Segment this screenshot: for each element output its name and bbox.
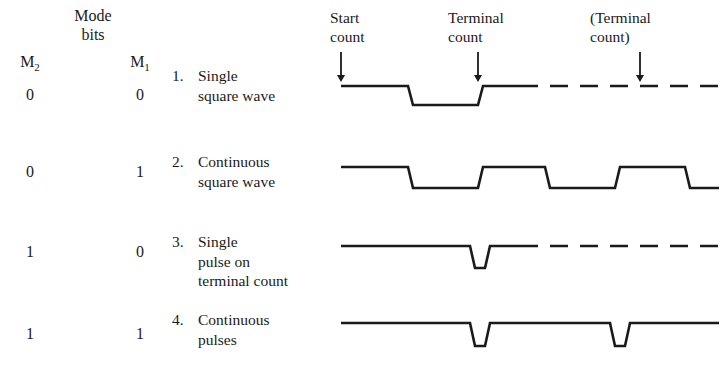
annotation-start-count-line2: count: [330, 27, 364, 46]
mode-bits-header-line1: Mode: [48, 6, 138, 25]
mode-description-2-line2: square wave: [198, 172, 337, 192]
mode-description-3: 3. Single pulse on terminal count: [172, 232, 337, 291]
annotation-terminal-count-alt: (Terminal count): [590, 8, 651, 46]
column-header-m1-label: M: [130, 53, 144, 70]
mode-description-4-line1: Continuous: [198, 310, 337, 330]
mode-timing-figure: Mode bits M2 M1 0 0 0 1 1 0 1 1 1. Singl…: [0, 0, 727, 376]
waveform-mode-continuous-pulses: [341, 323, 719, 346]
mode-description-3-line3: terminal count: [198, 271, 337, 291]
mode-bits-header-line2: bits: [48, 25, 138, 44]
mode-bits-header: Mode bits: [48, 6, 138, 44]
mode-description-2: 2. Continuous square wave: [172, 152, 337, 191]
column-header-m2-label: M: [20, 53, 34, 70]
mode-description-1-line1: Single: [198, 66, 337, 86]
bit-value-m1-row4: 1: [118, 325, 162, 343]
waveform-canvas: [0, 0, 727, 376]
waveform-mode-continuous-square-wave: [341, 167, 719, 188]
mode-description-3-line1: Single: [198, 232, 337, 252]
bit-value-m2-row2: 0: [8, 163, 52, 181]
bit-value-m1-row3: 0: [118, 243, 162, 261]
mode-description-1-line2: square wave: [198, 86, 337, 106]
mode-description-1: 1. Single square wave: [172, 66, 337, 105]
column-header-m1: M1: [118, 53, 162, 71]
annotation-start-count: Start count: [330, 8, 364, 46]
waveform-svg: [0, 0, 727, 376]
bit-value-m1-row1: 0: [118, 86, 162, 104]
mode-description-4-line2: pulses: [198, 330, 337, 350]
arrow-terminal-count-alt: [636, 52, 644, 82]
mode-description-4: 4. Continuous pulses: [172, 310, 337, 349]
bit-value-m2-row4: 1: [8, 325, 52, 343]
bit-value-m2-row3: 1: [8, 243, 52, 261]
mode-number-2: 2.: [172, 152, 194, 172]
arrow-start-count: [337, 52, 345, 82]
annotation-terminal-count: Terminal count: [448, 8, 504, 46]
annotation-terminal-count-line1: Terminal: [448, 8, 504, 27]
mode-number-4: 4.: [172, 310, 194, 330]
mode-description-2-line1: Continuous: [198, 152, 337, 172]
column-header-m2: M2: [8, 53, 52, 71]
annotation-terminal-count-line2: count: [448, 27, 504, 46]
mode-description-3-line2: pulse on: [198, 252, 337, 272]
annotation-terminal-count-alt-line1: (Terminal: [590, 8, 651, 27]
waveform-mode-single-pulse-terminal-count: [341, 246, 520, 268]
bit-value-m1-row2: 1: [118, 163, 162, 181]
column-header-m1-subscript: 1: [144, 61, 150, 73]
annotation-terminal-count-alt-line2: count): [590, 27, 651, 46]
annotation-start-count-line1: Start: [330, 8, 364, 27]
column-header-m2-subscript: 2: [34, 61, 40, 73]
waveform-mode-single-square-wave: [341, 86, 520, 105]
bit-value-m2-row1: 0: [8, 86, 52, 104]
mode-number-3: 3.: [172, 232, 194, 252]
mode-number-1: 1.: [172, 66, 194, 86]
arrow-terminal-count: [474, 52, 482, 82]
